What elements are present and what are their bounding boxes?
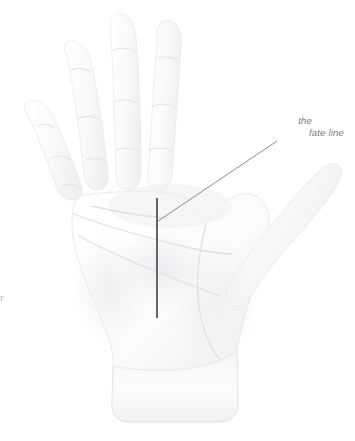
palmistry-figure: the fate line r [0, 0, 355, 441]
palm-hollow [118, 228, 206, 308]
fate-line-label-line-2: fate line [262, 127, 352, 139]
fate-line-label: the fate line [262, 115, 352, 138]
hand-illustration [0, 0, 355, 441]
fate-line-label-line-1: the [262, 115, 352, 127]
upper-palm-shadow [108, 184, 232, 228]
page-edge-partial-glyph: r [0, 292, 4, 303]
